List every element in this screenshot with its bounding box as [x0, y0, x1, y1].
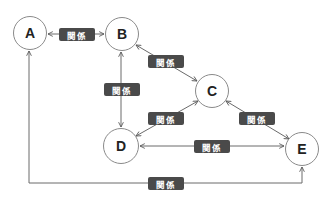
edge-label-b-d: 関係: [104, 83, 140, 96]
node-e[interactable]: E: [285, 132, 319, 166]
edge-label-e-a: 関係: [148, 177, 184, 190]
edge-label-c-d: 関係: [148, 112, 184, 125]
node-a[interactable]: A: [13, 16, 47, 50]
edge-label-b-c: 関係: [148, 55, 184, 68]
node-e-label: E: [297, 141, 306, 157]
relationship-diagram: A B C D E 関係 関係 関係 関係 関係 関係 関係: [0, 0, 329, 207]
edge-label-c-e: 関係: [239, 112, 275, 125]
node-d[interactable]: D: [103, 128, 139, 164]
edge-label-a-b: 関係: [59, 28, 95, 41]
node-c-label: C: [207, 83, 217, 99]
node-b[interactable]: B: [105, 17, 139, 51]
node-a-label: A: [25, 25, 35, 41]
edge-label-d-e: 関係: [194, 140, 230, 153]
node-c[interactable]: C: [195, 74, 229, 108]
node-d-label: D: [116, 138, 126, 154]
edges-layer: [0, 0, 329, 207]
node-b-label: B: [117, 26, 127, 42]
